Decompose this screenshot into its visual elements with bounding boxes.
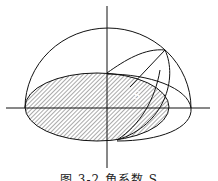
- surface-label: S: [133, 89, 141, 102]
- hemisphere-diagram: S: [0, 0, 218, 181]
- figure-caption: 图 3-2 角系数 S: [0, 170, 218, 181]
- upper-arc: [107, 50, 165, 73]
